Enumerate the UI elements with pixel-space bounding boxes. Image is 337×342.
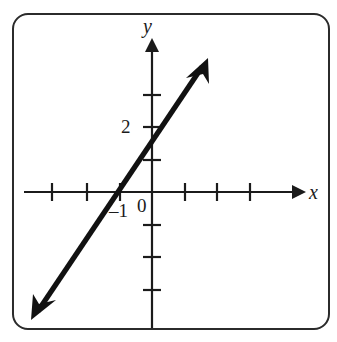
y-axis-label: y (143, 16, 152, 36)
y-tick-label-2: 2 (121, 117, 131, 136)
origin-label: 0 (137, 196, 147, 215)
x-axis-label: x (309, 182, 318, 202)
coordinate-plane-graphic (0, 0, 337, 342)
figure-root: 2 –1 0 x y (0, 0, 337, 342)
x-tick-label-neg1: –1 (109, 201, 128, 220)
